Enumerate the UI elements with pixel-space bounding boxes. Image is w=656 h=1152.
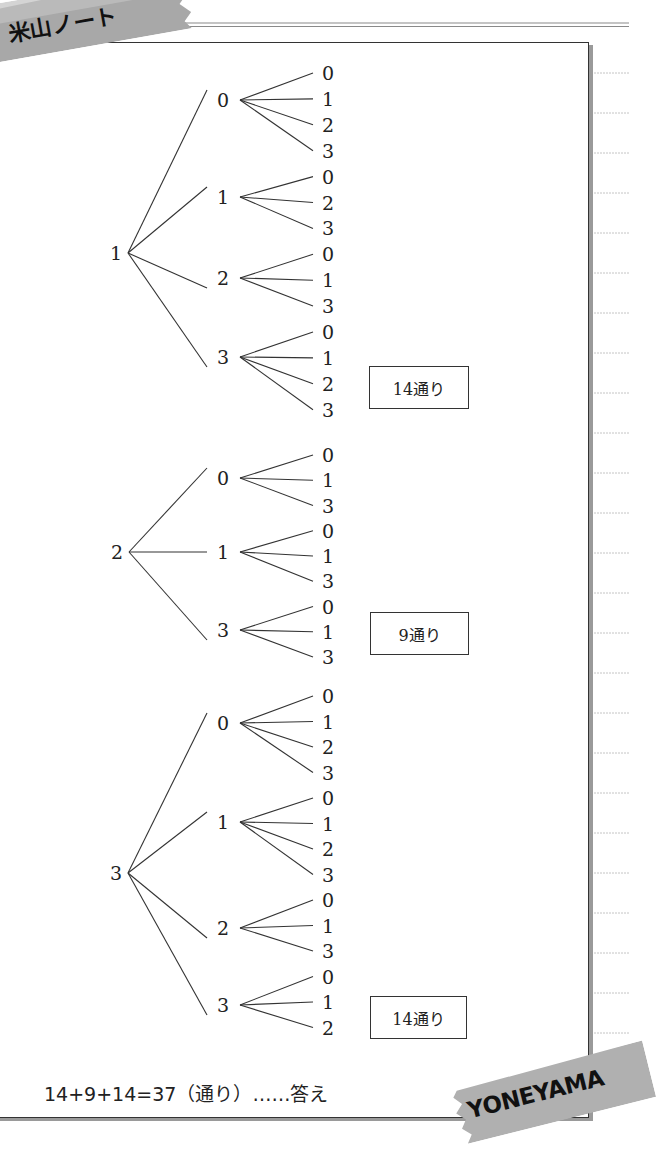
tree-edge	[240, 607, 313, 631]
tree-edge	[240, 822, 313, 849]
tree-edge	[240, 100, 313, 151]
tree-edge	[240, 1005, 313, 1028]
tree-branch-node: 3	[217, 346, 229, 368]
tree-leaf-node: 2	[322, 736, 334, 758]
tree-edge	[240, 822, 313, 824]
tree-leaf-node: 0	[322, 685, 334, 707]
tree-leaf-node: 1	[322, 621, 334, 643]
tree-leaf-node: 0	[322, 596, 334, 618]
tree-edge	[240, 357, 313, 410]
tree-edge	[240, 357, 313, 384]
tree-leaf-node: 0	[322, 966, 334, 988]
tree-edge	[240, 278, 313, 280]
count-box: 14通り	[370, 996, 467, 1039]
tree-leaf-node: 3	[322, 864, 334, 886]
tree-branch-node: 2	[217, 267, 229, 289]
tree-edge	[129, 468, 207, 552]
tree-edge	[240, 455, 313, 478]
tree-leaf-node: 1	[322, 88, 334, 110]
tree-edge	[240, 723, 313, 773]
tree-edge	[240, 552, 313, 581]
tree-leaf-node: 2	[322, 373, 334, 395]
tree-edge	[240, 478, 313, 480]
tree-edge	[240, 900, 313, 928]
tree-edge	[240, 99, 313, 100]
tree-leaf-node: 2	[322, 114, 334, 136]
tree-edge	[240, 1002, 313, 1005]
tree-branch-node: 3	[217, 994, 229, 1016]
count-box: 9通り	[370, 612, 469, 655]
tree-edge	[128, 187, 207, 253]
tree-branch-node: 0	[217, 89, 229, 111]
tree-edge	[240, 531, 313, 552]
tree-edge	[240, 926, 313, 929]
tree-edge	[128, 90, 207, 253]
tree-edge	[240, 73, 313, 100]
tree-edge	[128, 873, 207, 938]
tree-leaf-node: 0	[322, 166, 334, 188]
tree-root-node: 2	[111, 541, 123, 563]
tree-edge	[129, 552, 207, 640]
tree-root-node: 3	[110, 862, 122, 884]
tree-edge	[240, 723, 313, 747]
tree-edge	[128, 713, 207, 873]
tree-edge	[240, 254, 313, 278]
tree-leaf-node: 2	[322, 1017, 334, 1039]
tree-branch-node: 3	[217, 619, 229, 641]
tree-leaf-node: 3	[322, 495, 334, 517]
tree-edge	[240, 630, 313, 657]
tree-leaf-node: 1	[322, 347, 334, 369]
tree-leaf-node: 1	[322, 813, 334, 835]
tree-edge	[240, 798, 313, 822]
tree-leaf-node: 3	[322, 570, 334, 592]
tree-edge	[240, 100, 313, 125]
tree-branch-node: 1	[217, 541, 229, 563]
tree-branch-node: 1	[217, 186, 229, 208]
tree-leaf-node: 0	[322, 889, 334, 911]
tree-leaf-node: 1	[322, 269, 334, 291]
tree-edge	[240, 630, 313, 632]
tree-edge	[240, 928, 313, 951]
tree-branch-node: 2	[217, 917, 229, 939]
tree-leaf-node: 0	[322, 520, 334, 542]
tree-leaf-node: 3	[322, 295, 334, 317]
tree-leaf-node: 1	[322, 469, 334, 491]
tree-leaf-node: 2	[322, 838, 334, 860]
tree-leaf-node: 0	[322, 321, 334, 343]
tree-edge	[240, 822, 313, 875]
tree-leaf-node: 0	[322, 62, 334, 84]
tree-leaf-node: 1	[322, 545, 334, 567]
tree-leaf-node: 3	[322, 217, 334, 239]
tree-leaf-node: 3	[322, 940, 334, 962]
tree-edge	[240, 278, 313, 306]
tree-branch-node: 0	[217, 712, 229, 734]
tree-edge	[128, 812, 207, 873]
tree-leaf-node: 3	[322, 646, 334, 668]
count-box: 14通り	[369, 366, 469, 409]
tree-edge	[240, 177, 313, 197]
tree-edge	[128, 873, 207, 1015]
tree-leaf-node: 1	[322, 711, 334, 733]
tree-edge	[240, 332, 313, 357]
tree-edge	[240, 357, 313, 358]
tree-branch-node: 1	[217, 811, 229, 833]
tree-leaf-node: 0	[322, 787, 334, 809]
tree-edge	[240, 696, 313, 723]
tree-edge	[240, 977, 313, 1006]
tree-leaf-node: 3	[322, 762, 334, 784]
tree-leaf-node: 2	[322, 192, 334, 214]
tree-edge	[240, 478, 313, 506]
tree-root-node: 1	[110, 242, 122, 264]
tree-leaf-node: 0	[322, 243, 334, 265]
tree-leaf-node: 1	[322, 991, 334, 1013]
tree-leaf-node: 3	[322, 140, 334, 162]
answer-text: 14+9+14=37（通り）……答え	[44, 1079, 328, 1106]
tree-leaf-node: 1	[322, 915, 334, 937]
tree-branch-node: 0	[217, 467, 229, 489]
tree-edge	[240, 722, 313, 724]
tree-leaf-node: 0	[322, 444, 334, 466]
tree-edge	[240, 552, 313, 556]
tree-leaf-node: 3	[322, 399, 334, 421]
